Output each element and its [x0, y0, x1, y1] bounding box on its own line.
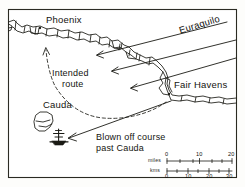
place-dot-fair-havens — [168, 93, 170, 95]
place-label-fair-havens: Fair Havens — [174, 80, 227, 90]
scale-tick-kms-30: 30 — [226, 174, 233, 180]
actual-route-label-line1: Blown off course — [96, 133, 166, 142]
scale-tick-miles-10: 10 — [196, 152, 203, 158]
actual-route-label-line2: past Cauda — [96, 144, 144, 153]
scale-unit-kms: kms — [150, 168, 160, 173]
scale-tick-kms-10: 10 — [185, 174, 192, 180]
scale-tick-kms-0: 0 — [165, 174, 168, 180]
place-label-phoenix: Phoenix — [46, 15, 82, 25]
scale-unit-miles: miles — [148, 158, 161, 163]
place-label-cauda: Cauda — [43, 100, 72, 110]
scale-tick-kms-20: 20 — [206, 174, 213, 180]
place-dot-phoenix — [39, 27, 41, 29]
intended-route-label-line1: Intended — [52, 69, 89, 78]
scale-tick-miles-20: 20 — [228, 152, 235, 158]
map-figure: Phoenix Fair Havens Cauda Euraquilo Inte… — [0, 0, 245, 187]
scale-tick-miles-0: 0 — [165, 152, 168, 158]
map-canvas — [0, 0, 245, 187]
intended-route-label-line2: route — [62, 80, 84, 89]
